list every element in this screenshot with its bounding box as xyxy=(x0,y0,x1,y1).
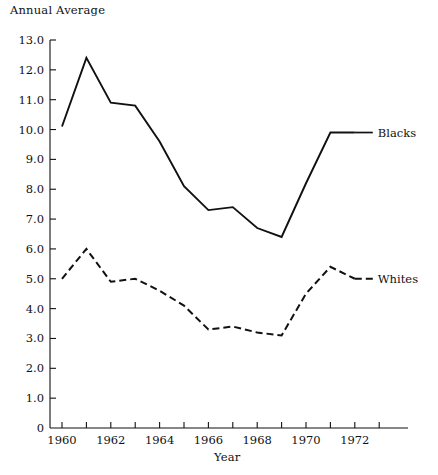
y-tick-label: 12.0 xyxy=(18,63,44,77)
x-tick-label: 1968 xyxy=(243,433,272,447)
y-tick-label: 9.0 xyxy=(26,152,44,166)
y-tick-label: 7.0 xyxy=(26,212,44,226)
x-tick-label: 1966 xyxy=(194,433,223,447)
y-axis: 01.02.03.04.05.06.07.08.09.010.011.012.0… xyxy=(18,33,56,435)
y-tick-label: 13.0 xyxy=(18,33,44,47)
chart-plot-area: 01.02.03.04.05.06.07.08.09.010.011.012.0… xyxy=(0,0,438,475)
y-tick-label: 4.0 xyxy=(26,302,44,316)
series-line-blacks xyxy=(62,58,355,237)
y-tick-label: 1.0 xyxy=(26,391,44,405)
x-axis: 1960196219641966196819701972 xyxy=(47,422,408,447)
y-tick-label: 6.0 xyxy=(26,242,44,256)
y-tick-label: 3.0 xyxy=(26,331,44,345)
y-tick-label: 2.0 xyxy=(26,361,44,375)
legend-label-blacks: Blacks xyxy=(378,126,416,140)
y-tick-label: 11.0 xyxy=(18,93,44,107)
y-tick-label: 5.0 xyxy=(26,272,44,286)
y-tick-label: 10.0 xyxy=(18,123,44,137)
x-tick-label: 1964 xyxy=(145,433,174,447)
legend: BlacksWhites xyxy=(355,126,418,286)
unemployment-rate-line-chart: Annual Average Year 01.02.03.04.05.06.07… xyxy=(0,0,438,475)
data-series-group xyxy=(62,58,355,336)
x-tick-label: 1960 xyxy=(47,433,76,447)
y-tick-label: 0 xyxy=(37,421,44,435)
legend-label-whites: Whites xyxy=(378,272,418,286)
x-tick-label: 1970 xyxy=(291,433,320,447)
x-tick-label: 1962 xyxy=(96,433,125,447)
x-tick-label: 1972 xyxy=(340,433,369,447)
series-line-whites xyxy=(62,249,355,336)
y-tick-label: 8.0 xyxy=(26,182,44,196)
